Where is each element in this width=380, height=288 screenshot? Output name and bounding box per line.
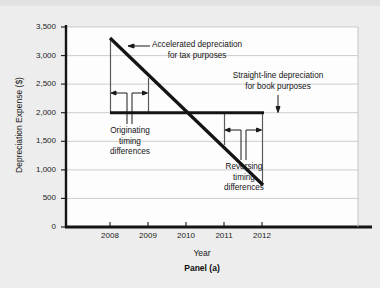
y-tick-label-0: 0: [20, 222, 56, 231]
annotation-originating-line3: differences: [96, 147, 164, 158]
annotation-accelerated-depreciation: Accelerated depreciation for tax purpose…: [152, 40, 242, 61]
y-axis-title: Depreciation Expense ($): [14, 55, 24, 195]
y-tick-label-1000: 1,000: [20, 165, 56, 174]
x-tick-label-2010: 2010: [166, 231, 206, 240]
annotation-reversing-line3: differences: [209, 183, 279, 194]
annotation-straight-line-depreciation: Straight-line depreciation for book purp…: [217, 71, 339, 92]
y-tick-label-1500: 1,500: [20, 136, 56, 145]
x-tick-label-2008: 2008: [90, 231, 130, 240]
y-tick-label-3000: 3,000: [20, 51, 56, 60]
annotation-originating-timing-differences: Originating timing differences: [96, 126, 164, 158]
x-tick-label-2012: 2012: [242, 231, 282, 240]
annotation-reversing-line1: Reversing: [209, 162, 279, 173]
x-tick-label-2011: 2011: [204, 231, 244, 240]
annotation-straight-line-line1: Straight-line depreciation: [217, 71, 339, 82]
annotation-originating-line1: Originating: [96, 126, 164, 137]
annotation-reversing-line2: timing: [209, 173, 279, 184]
annotation-accelerated-line1: Accelerated depreciation: [152, 40, 242, 51]
y-tick-label-3500: 3,500: [20, 22, 56, 31]
annotation-accelerated-line2: for tax purposes: [152, 51, 242, 62]
y-tick-label-2000: 2,000: [20, 108, 56, 117]
panel-label: Panel (a): [0, 263, 380, 273]
figure-panel-a: 3,500 3,000 2,500 2,000 1,500 1,000 500 …: [0, 0, 380, 288]
x-axis-title: Year: [0, 248, 380, 258]
y-tick-label-500: 500: [20, 193, 56, 202]
x-tick-label-2009: 2009: [128, 231, 168, 240]
annotation-straight-line-line2: for book purposes: [217, 82, 339, 93]
annotation-originating-line2: timing: [96, 137, 164, 148]
y-tick-label-2500: 2,500: [20, 79, 56, 88]
annotation-reversing-timing-differences: Reversing timing differences: [209, 162, 279, 194]
